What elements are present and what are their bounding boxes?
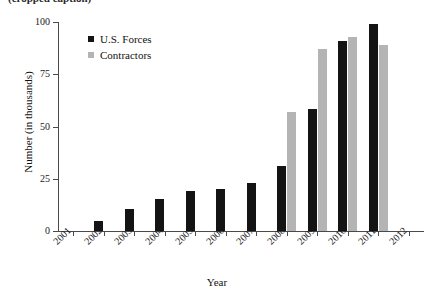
legend-label: Contractors <box>100 48 151 63</box>
chart-legend: U.S. ForcesContractors <box>88 31 152 63</box>
y-axis-tick-label-100: 100 <box>20 17 50 27</box>
bar-u-s-forces-2011 <box>369 24 378 231</box>
bar-u-s-forces-2003 <box>125 209 134 231</box>
bar-u-s-forces-2007 <box>247 183 256 231</box>
y-axis-tick-label-0: 0 <box>20 226 50 236</box>
legend-item-contractors: Contractors <box>88 47 152 63</box>
bar-u-s-forces-2010 <box>338 41 347 231</box>
x-axis-tick-2002 <box>104 232 105 236</box>
x-axis-tick-2007 <box>256 232 257 236</box>
bar-u-s-forces-2005 <box>186 191 195 231</box>
x-axis-tick-2003 <box>134 232 135 236</box>
x-axis-tick-2001 <box>73 232 74 236</box>
legend-item-u-s-forces: U.S. Forces <box>88 31 152 47</box>
bar-u-s-forces-2006 <box>216 189 225 231</box>
gray-square-swatch <box>88 52 94 58</box>
bar-u-s-forces-2009 <box>308 109 317 231</box>
x-axis-tick-2005 <box>195 232 196 236</box>
x-axis-tick-2006 <box>226 232 227 236</box>
bar-contractors-2010 <box>348 37 357 231</box>
x-axis-tick-2004 <box>165 232 166 236</box>
y-axis-title: Number (in thousands) <box>22 32 34 212</box>
bar-contractors-2011 <box>379 45 388 231</box>
x-axis-title: Year <box>0 276 434 288</box>
x-axis-tick-2012 <box>409 232 410 236</box>
black-square-swatch <box>88 36 94 42</box>
legend-label: U.S. Forces <box>100 32 152 47</box>
x-axis-tick-2010 <box>348 232 349 236</box>
bar-u-s-forces-2004 <box>155 199 164 231</box>
bar-u-s-forces-2008 <box>277 166 286 231</box>
bar-u-s-forces-2002 <box>94 221 103 231</box>
bar-contractors-2009 <box>318 49 327 231</box>
x-axis-tick-2011 <box>378 232 379 236</box>
bar-contractors-2008 <box>287 112 296 231</box>
x-axis-tick-2009 <box>317 232 318 236</box>
x-axis-tick-2008 <box>287 232 288 236</box>
bar-chart-figure: 0255075100 20012002200320042005200620072… <box>0 0 434 292</box>
